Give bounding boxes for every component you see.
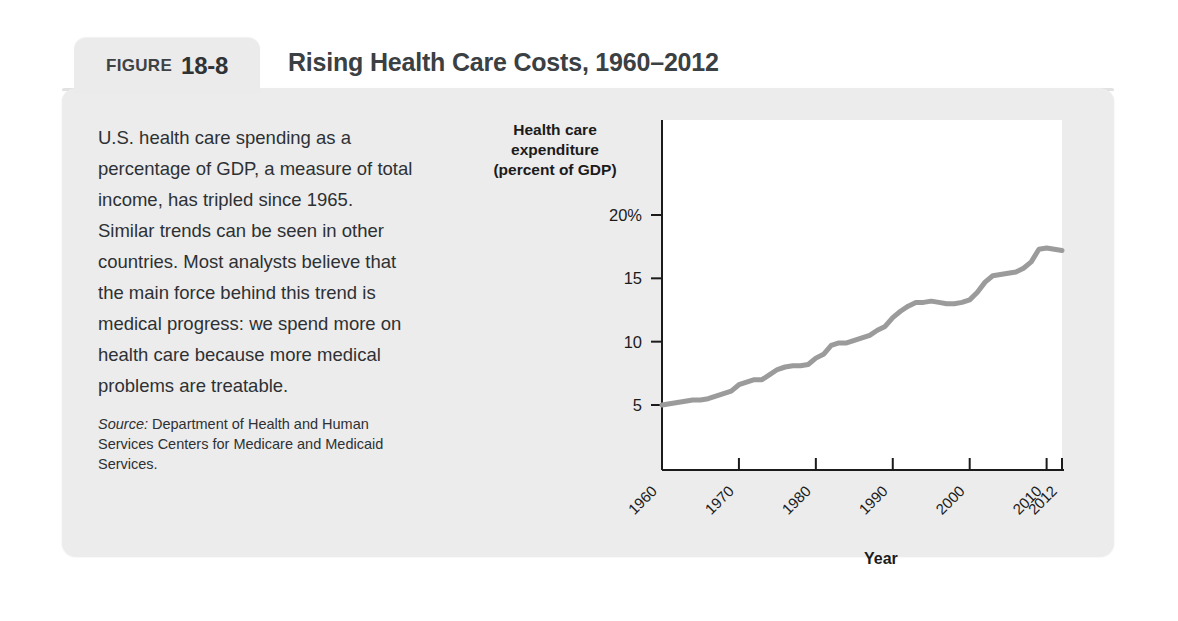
x-axis-group: 1960197019801990200020102012: [625, 458, 1064, 518]
y-tick-label-10: 10: [624, 333, 642, 351]
health-expenditure-line: [662, 248, 1062, 405]
y-tick-label-20%: 20%: [609, 206, 642, 224]
source-label: Source:: [98, 416, 148, 432]
y-tick-label-15: 15: [624, 269, 642, 287]
data-series-group: [662, 248, 1062, 405]
y-axis-tick-labels: 5101520%: [609, 206, 642, 414]
figure-tab-number: 18-8: [181, 52, 228, 80]
x-axis-title: Year: [864, 550, 898, 568]
figure-tab: FIGURE 18-8: [74, 38, 260, 94]
line-chart-svg: 5101520% 1960197019801990200020102012: [430, 110, 1090, 510]
y-tick-label-5: 5: [633, 396, 642, 414]
y-axis-ticks: [651, 215, 662, 405]
chart-container: Health care expenditure (percent of GDP)…: [430, 110, 1090, 450]
x-axis-ticks: [662, 458, 1062, 470]
figure-tab-label: FIGURE: [106, 56, 172, 76]
description-body: U.S. health care spending as a percentag…: [98, 122, 414, 401]
source-note: Source: Department of Health and Human S…: [98, 414, 414, 474]
y-axis-group: 5101520%: [609, 120, 662, 470]
figure-title: Rising Health Care Costs, 1960–2012: [288, 48, 719, 77]
description-column: U.S. health care spending as a percentag…: [98, 122, 414, 474]
